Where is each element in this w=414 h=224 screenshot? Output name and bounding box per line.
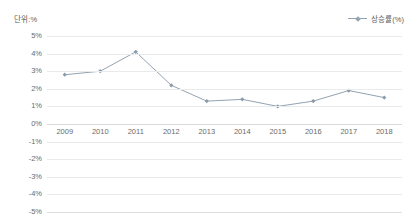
gridline-5: [47, 36, 402, 37]
y-axis-tick-label: 3%: [31, 67, 42, 75]
y-axis-tick-label: 2%: [31, 85, 42, 93]
gridline-neg4: [47, 194, 402, 195]
y-axis-tick-label: 0%: [31, 120, 42, 128]
y-axis-tick-label: -4%: [29, 191, 42, 199]
y-axis-tick-label: -5%: [29, 208, 42, 216]
x-axis-tick-label: 2012: [163, 128, 180, 136]
y-axis-tick-label: 5%: [31, 32, 42, 40]
y-axis-tick-label: -2%: [29, 155, 42, 163]
unit-label: 단위:%: [14, 13, 37, 24]
series-polyline: [65, 52, 385, 107]
x-axis-tick-label: 2009: [56, 128, 73, 136]
line-chart: 단위:% 상승률(%) 5%4%3%2%1%0%-1%-2%-3%-4%-5%2…: [0, 0, 414, 224]
gridline-1: [47, 106, 402, 107]
data-point-marker: [205, 99, 209, 103]
legend-line-diamond-marker-icon: [348, 15, 367, 22]
x-axis-tick-label: 2017: [340, 128, 357, 136]
gridline-neg2: [47, 159, 402, 160]
y-axis-tick-label: 1%: [31, 103, 42, 111]
gridline-neg1: [47, 142, 402, 143]
gridline-2: [47, 89, 402, 90]
x-axis-tick-label: 2014: [234, 128, 251, 136]
chart-legend: 상승률(%): [348, 13, 404, 24]
gridline-neg5: [47, 212, 402, 213]
gridline-0: [47, 124, 402, 125]
data-point-marker: [63, 73, 67, 77]
x-axis-tick-label: 2015: [269, 128, 286, 136]
x-axis-tick-label: 2013: [198, 128, 215, 136]
x-axis-tick-label: 2016: [305, 128, 322, 136]
data-point-marker: [240, 97, 244, 101]
y-axis-tick-label: -1%: [29, 138, 42, 146]
legend-item-label: 상승률(%): [371, 13, 404, 24]
y-axis-tick-label: 4%: [31, 50, 42, 58]
data-point-marker: [311, 99, 315, 103]
gridline-3: [47, 71, 402, 72]
data-point-marker: [382, 96, 386, 100]
x-axis-tick-label: 2018: [376, 128, 393, 136]
plot-area: 5%4%3%2%1%0%-1%-2%-3%-4%-5%2009201020112…: [47, 36, 402, 212]
gridline-4: [47, 54, 402, 55]
x-axis-tick-label: 2011: [128, 128, 144, 136]
x-axis-tick-label: 2010: [92, 128, 109, 136]
y-axis-tick-label: -3%: [29, 173, 42, 181]
gridline-neg3: [47, 177, 402, 178]
